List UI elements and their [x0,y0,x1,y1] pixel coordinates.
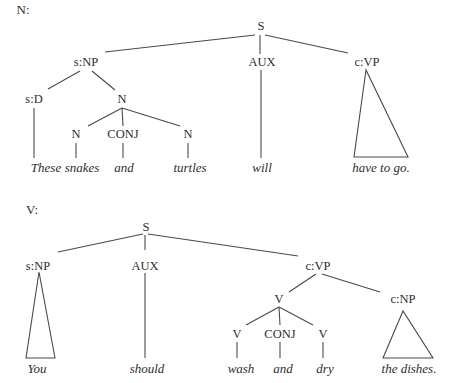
branch-line [148,234,298,256]
branch-line [322,274,380,292]
node-label: S [143,220,150,234]
branch-line [122,108,123,126]
tree-canvas: N: Ss:NPAUXc:VPs:DNNCONJNThesesnakesandt… [0,0,464,383]
tree-v-nodes: Ss:NPAUXc:VPVc:NPVCONJVYoushouldwashandd… [26,220,437,376]
node-label: c:VP [355,55,380,69]
branch-line [246,307,279,325]
branch-line [122,108,180,126]
branch-line [58,234,143,252]
node-label: V [274,292,283,306]
branch-line [88,108,122,126]
branch-line [279,307,280,325]
node-label: c:VP [306,259,331,273]
constituent-triangle [383,311,433,358]
constituent-triangle [26,272,55,358]
tree-n-triangles [354,70,408,157]
terminal-word: snakes [65,160,100,175]
node-label: CONJ [107,127,138,141]
branch-line [289,274,316,292]
node-label: CONJ [264,327,295,341]
terminal-word: wash [228,361,255,376]
node-label: AUX [131,259,158,273]
terminal-word: and [273,361,293,376]
branch-line [265,35,348,53]
tree-v-branches [58,234,380,358]
node-label: c:NP [391,292,416,306]
node-label: s:D [25,92,42,106]
branch-line [105,35,255,52]
terminal-word: should [130,361,165,376]
node-label: N [117,92,126,106]
terminal-word: These [31,160,62,175]
node-label: s:NP [74,55,98,69]
branch-line [279,307,313,325]
branch-line [92,71,115,90]
terminal-word: have to go. [352,160,409,175]
terminal-word: You [27,361,47,376]
node-label: V [318,327,327,341]
tree-v: V: Ss:NPAUXc:VPVc:NPVCONJVYoushouldwasha… [26,202,437,376]
node-label: AUX [248,55,275,69]
node-label: V [232,327,241,341]
tree-n-nodes: Ss:NPAUXc:VPs:DNNCONJNThesesnakesandturt… [25,19,409,175]
tree-n-title: N: [17,2,30,17]
constituent-triangle [354,70,408,157]
tree-v-title: V: [26,202,38,217]
node-label: s:NP [26,259,50,273]
terminal-word: the dishes. [382,361,437,376]
terminal-word: turtles [173,160,206,175]
syntax-tree-diagram: N: Ss:NPAUXc:VPs:DNNCONJNThesesnakesandt… [0,0,464,383]
terminal-word: dry [316,361,334,376]
tree-n: N: Ss:NPAUXc:VPs:DNNCONJNThesesnakesandt… [17,2,410,175]
tree-v-triangles [26,272,433,358]
terminal-word: will [252,160,272,175]
node-label: N [71,127,80,141]
node-label: N [183,127,192,141]
terminal-word: and [114,160,134,175]
branch-line [48,71,80,89]
node-label: S [258,19,265,33]
